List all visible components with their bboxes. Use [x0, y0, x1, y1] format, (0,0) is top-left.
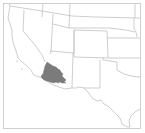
island-marker	[21, 68, 22, 69]
map-container: Southwestern United States	[0, 0, 145, 133]
island-marker	[16, 60, 17, 61]
southwest-us-map	[0, 0, 145, 133]
map-frame-border	[4, 4, 141, 129]
